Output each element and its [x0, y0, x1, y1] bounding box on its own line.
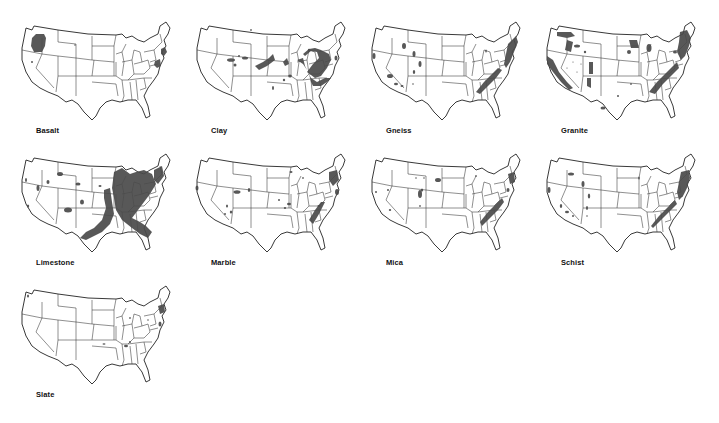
deposit-area [475, 175, 477, 177]
deposit-area [238, 55, 240, 57]
deposit-area [589, 62, 593, 74]
deposit-area [124, 345, 128, 347]
deposit-area [57, 172, 63, 176]
deposit-area [27, 295, 29, 298]
deposit-area [387, 189, 389, 191]
deposit-area [580, 63, 581, 64]
deposit-area [129, 341, 131, 343]
deposit-area [25, 178, 27, 182]
deposit-area [250, 29, 252, 31]
deposit-area [415, 177, 417, 179]
deposit-area [673, 51, 677, 54]
deposit-area [47, 180, 50, 184]
deposit-area [284, 207, 286, 209]
deposit-area [373, 53, 376, 59]
deposit-area [582, 181, 585, 187]
deposit-area [586, 215, 588, 217]
deposit-area [565, 211, 569, 213]
deposit-area [308, 49, 310, 51]
deposit-area [574, 45, 580, 48]
deposit-area [335, 189, 339, 195]
deposit-area [248, 188, 250, 192]
deposit-area [572, 61, 573, 62]
rock-type-label: Slate [36, 390, 54, 399]
us-map [18, 280, 182, 388]
deposit-area [566, 67, 567, 68]
deposit-area [27, 205, 29, 208]
map-panel-limestone: Limestone [18, 148, 186, 276]
deposit-area [601, 107, 606, 110]
rock-type-label: Limestone [36, 258, 74, 267]
deposit-area [272, 86, 274, 90]
deposit-area [413, 51, 416, 57]
deposit-area [413, 70, 415, 74]
map-panel-gneiss: Gneiss [368, 16, 536, 144]
deposit-area [568, 173, 574, 176]
deposit-area [435, 178, 441, 182]
us-map [543, 148, 707, 256]
rock-type-label: Gneiss [386, 126, 412, 135]
us-map [18, 16, 182, 124]
map-panel-granite: Granite [543, 16, 711, 144]
deposit-area [335, 56, 338, 61]
deposit-area [560, 204, 562, 208]
deposit-area [99, 185, 102, 187]
deposit-area [230, 211, 232, 214]
rock-type-label: Marble [211, 258, 236, 267]
deposit-area [401, 85, 404, 87]
deposit-area [421, 189, 423, 192]
deposit-area [627, 50, 631, 54]
deposit-area [318, 205, 321, 207]
deposit-area [224, 213, 226, 215]
rock-type-label: Mica [386, 258, 403, 267]
deposit-area [80, 200, 84, 205]
rock-type-label: Granite [561, 126, 588, 135]
map-panel-marble: Marble [193, 148, 361, 276]
deposit-area [234, 190, 241, 194]
deposit-area [242, 57, 248, 60]
us-outline [22, 286, 170, 384]
deposit-area [74, 44, 76, 46]
rock-type-label: Schist [561, 258, 584, 267]
rock-type-label: Basalt [36, 126, 59, 135]
deposit-area [647, 44, 652, 52]
map-panel-mica: Mica [368, 148, 536, 276]
deposit-area [419, 61, 422, 67]
deposit-area [103, 343, 106, 345]
deposit-area [584, 51, 586, 53]
deposit-area [586, 206, 588, 210]
deposit-area [588, 194, 590, 199]
deposit-area [37, 185, 40, 191]
deposit-area [630, 83, 632, 85]
deposit-area [302, 177, 304, 179]
deposit-area [576, 71, 577, 72]
deposit-area [394, 83, 398, 85]
us-map [18, 148, 182, 256]
deposit-area [387, 74, 393, 78]
deposit-area [485, 50, 487, 53]
deposit-area [278, 199, 280, 201]
deposit-area [548, 187, 551, 193]
deposit-area [288, 75, 292, 78]
deposit-area [147, 319, 149, 321]
deposit-area [227, 58, 235, 62]
rock-type-label: Clay [211, 126, 227, 135]
map-panel-slate: Slate [18, 280, 186, 408]
map-panel-basalt: Basalt [18, 16, 186, 144]
deposit-area [572, 215, 574, 217]
deposit-area [159, 322, 162, 327]
deposit-area [287, 203, 291, 205]
us-map [368, 148, 532, 256]
deposit-area [402, 43, 406, 49]
deposit-area [423, 177, 425, 179]
deposit-area [31, 61, 33, 63]
deposit-area [129, 317, 131, 319]
deposit-area [677, 30, 691, 60]
deposit-area [234, 64, 237, 67]
deposit-area [76, 183, 81, 186]
deposit-area [617, 95, 619, 97]
deposit-area [419, 205, 421, 207]
deposit-area [412, 83, 414, 85]
deposit-area [375, 191, 377, 193]
deposit-area [638, 177, 640, 180]
